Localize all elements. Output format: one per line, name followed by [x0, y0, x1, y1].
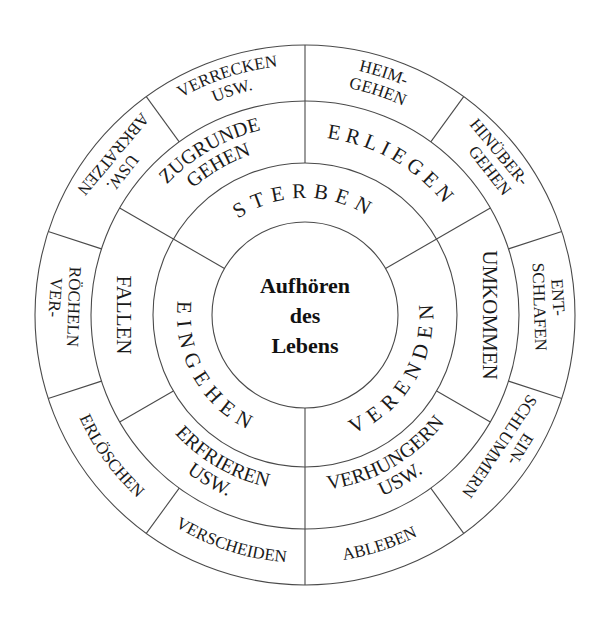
middle-ring-divider: [120, 208, 174, 239]
middle-ring-divider: [437, 208, 491, 239]
outer-segment-ableben: ABLEBEN: [341, 522, 420, 564]
middle-segment-umkommen: UMKOMMEN: [478, 250, 502, 380]
outer-ring-divider: [146, 488, 179, 533]
middle-segment-fallen: FALLEN: [112, 276, 136, 355]
outer-ring-divider: [509, 232, 562, 249]
center-label: Aufhören des Lebens: [260, 273, 350, 358]
outer-segment-ver--röcheln-line2: RÖCHELN: [63, 266, 85, 347]
middle-ring-divider: [437, 391, 491, 422]
center-line-2: des: [290, 303, 321, 328]
center-line-3: Lebens: [271, 333, 339, 358]
outer-segment-ver--röcheln: VER-: [44, 277, 66, 318]
outer-segment-verscheiden: VERSCHEIDEN: [173, 513, 288, 566]
inner-segment-sterben: STERBEN: [228, 179, 381, 223]
inner-segment-verenden: VERENDEN: [345, 297, 439, 438]
outer-ring-divider: [48, 381, 101, 398]
outer-segment-ent--schlafen-line2: SCHLAFEN: [528, 263, 550, 351]
outer-ring-divider: [431, 488, 464, 533]
inner-ring-divider: [386, 239, 437, 269]
word-field-diagram: STERBENVERENDENEINGEHENZUGRUNDEGEHENERLI…: [0, 0, 605, 625]
inner-segment-eingehen: EINGEHEN: [172, 301, 263, 437]
middle-ring-divider: [120, 391, 174, 422]
center-line-1: Aufhören: [260, 273, 350, 298]
outer-ring-divider: [48, 232, 101, 249]
outer-ring-divider: [509, 381, 562, 398]
outer-segment-erlöschen: ERLÖSCHEN: [76, 411, 149, 501]
outer-segment-ent--schlafen: ENT-: [547, 278, 569, 317]
inner-ring-divider: [173, 239, 224, 269]
outer-ring-divider: [431, 97, 464, 142]
